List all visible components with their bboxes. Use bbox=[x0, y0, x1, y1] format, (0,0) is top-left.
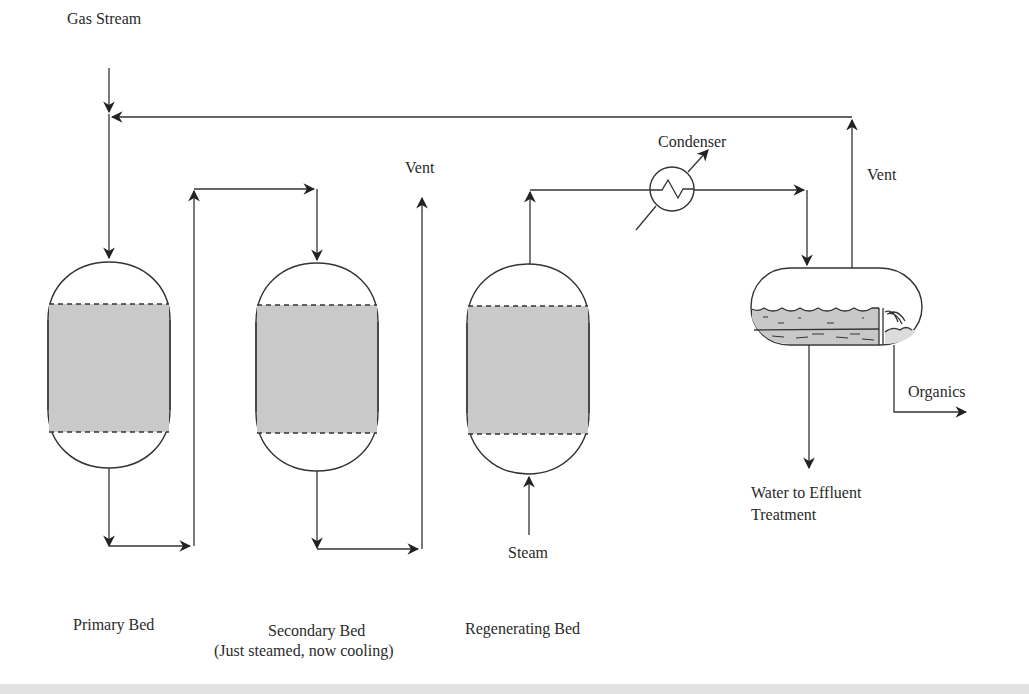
regenerating-bed-label: Regenerating Bed bbox=[465, 620, 580, 638]
gas-stream-inlet: Gas Stream bbox=[67, 10, 142, 258]
secondary-vent-label: Vent bbox=[405, 159, 435, 176]
separator-vent-label: Vent bbox=[867, 166, 897, 183]
primary-bed: Primary Bed bbox=[48, 262, 170, 634]
organics-outlet: Organics bbox=[894, 345, 966, 412]
vent-recycle-line: Vent bbox=[112, 117, 897, 268]
secondary-bed-sublabel: (Just steamed, now cooling) bbox=[214, 642, 394, 660]
coolant-inlet-line bbox=[636, 206, 656, 230]
regenerating-bed: Regenerating Bed bbox=[465, 264, 589, 638]
coolant-outlet-arrow bbox=[688, 150, 708, 172]
secondary-bed: Secondary Bed (Just steamed, now cooling… bbox=[214, 263, 394, 660]
separator bbox=[751, 268, 922, 345]
page-edge-strip bbox=[0, 684, 1029, 694]
process-flow-diagram: Gas Stream Vent Primary Bed Secondary Be… bbox=[0, 0, 1029, 694]
primary-bed-label: Primary Bed bbox=[73, 616, 154, 634]
regenerating-bed-packing bbox=[468, 306, 588, 434]
primary-bed-packing bbox=[49, 304, 169, 432]
gas-stream-label: Gas Stream bbox=[67, 10, 142, 27]
organics-label: Organics bbox=[908, 383, 965, 401]
secondary-bed-packing bbox=[257, 305, 377, 433]
organics-arrow bbox=[894, 345, 966, 412]
condenser: Condenser bbox=[636, 133, 727, 230]
water-label-line1: Water to Effluent bbox=[751, 484, 862, 501]
separator-liquid bbox=[752, 308, 879, 344]
steam-label: Steam bbox=[508, 544, 549, 561]
condenser-label: Condenser bbox=[658, 133, 727, 150]
water-outlet: Water to Effluent Treatment bbox=[751, 345, 862, 523]
water-label-line2: Treatment bbox=[751, 506, 817, 523]
steam-inlet: Steam bbox=[508, 477, 549, 561]
secondary-bed-label: Secondary Bed bbox=[268, 622, 365, 640]
